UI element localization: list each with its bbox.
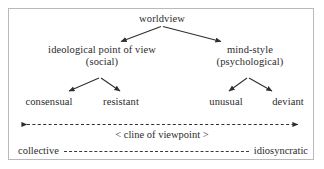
node-ideological-label-line2: (social) <box>22 56 182 68</box>
node-consensual: consensual <box>18 96 80 108</box>
node-unusual: unusual <box>200 96 252 108</box>
node-resistant-label: resistant <box>103 96 139 107</box>
node-ideological-label-line1: ideological point of view <box>48 44 156 55</box>
node-resistant: resistant <box>92 96 150 108</box>
diagram-figure: worldview ideological point of view (soc… <box>0 0 324 169</box>
cline-caption: < cline of viewpoint > <box>0 129 324 141</box>
node-consensual-label: consensual <box>25 96 72 107</box>
cline-caption-text: < cline of viewpoint > <box>115 129 209 140</box>
cline-scale-row: collective idiosyncratic <box>18 143 308 158</box>
scale-pole-collective: collective <box>18 145 59 157</box>
node-mindstyle-label-line1: mind-style <box>227 44 273 55</box>
node-deviant-label: deviant <box>272 96 304 107</box>
node-mind-style: mind-style (psychological) <box>196 44 304 67</box>
node-ideological-point-of-view: ideological point of view (social) <box>22 44 182 67</box>
node-unusual-label: unusual <box>209 96 242 107</box>
node-mindstyle-label-line2: (psychological) <box>196 56 304 68</box>
scale-pole-idiosyncratic: idiosyncratic <box>254 145 308 157</box>
node-worldview-label: worldview <box>139 13 185 24</box>
node-deviant: deviant <box>262 96 314 108</box>
node-worldview: worldview <box>112 13 212 25</box>
scale-dashed-line <box>64 151 249 153</box>
